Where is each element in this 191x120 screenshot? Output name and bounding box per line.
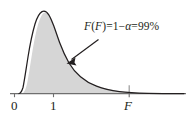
x-axis-label-1: 1 [50, 99, 57, 112]
annotation-equals-second: = [131, 20, 138, 32]
distribution-plot [0, 0, 191, 120]
cumulative-probability-annotation: F(F)=1−α=99% [84, 21, 159, 33]
annotation-arrow-shaft [72, 40, 99, 60]
x-axis-label-0: 0 [11, 99, 18, 112]
annotation-percent-value: 99% [138, 20, 159, 32]
f-distribution-figure: 0 1 F F(F)=1−α=99% [0, 0, 191, 120]
x-axis-label-f: F [124, 99, 132, 112]
annotation-equals-first: = [106, 20, 113, 32]
